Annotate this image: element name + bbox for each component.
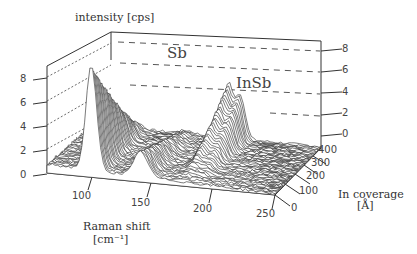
z-axis-label: intensity [cps] [75,11,154,24]
x-axis-label: Raman shift [83,220,150,233]
left-z-ticks [33,78,47,176]
x-axis-unit: [cm⁻¹] [93,233,128,246]
y-tick-400: 400 [318,144,337,155]
left-tick-0: 0 [20,169,26,180]
left-tick-4: 4 [20,121,26,132]
right-tick-6: 6 [342,64,348,75]
waterfall-chart [0,0,417,254]
x-tick-150: 150 [131,197,150,208]
right-tick-8: 8 [342,43,348,54]
x-tick-200: 200 [193,203,212,214]
insb-annotation: InSb [236,74,271,92]
spectra-stack [47,68,321,195]
right-z-ticks [321,49,342,136]
y-tick-0: 0 [291,202,297,213]
left-tick-2: 2 [20,145,26,156]
right-tick-4: 4 [342,86,348,97]
left-tick-6: 6 [20,97,26,108]
x-tick-250: 250 [256,208,275,219]
y-tick-300: 300 [311,157,330,168]
y-axis-unit: [Å] [357,199,374,212]
right-tick-0: 0 [342,128,348,139]
sb-annotation: Sb [167,44,187,62]
right-tick-2: 2 [342,107,348,118]
y-tick-200: 200 [306,170,325,181]
y-tick-100: 100 [299,185,318,196]
x-tick-100: 100 [72,190,91,201]
left-tick-8: 8 [20,73,26,84]
